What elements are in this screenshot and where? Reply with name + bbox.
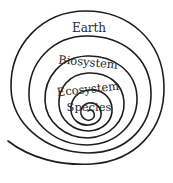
label-earth: Earth — [72, 22, 106, 34]
label-species: Species — [67, 102, 112, 114]
